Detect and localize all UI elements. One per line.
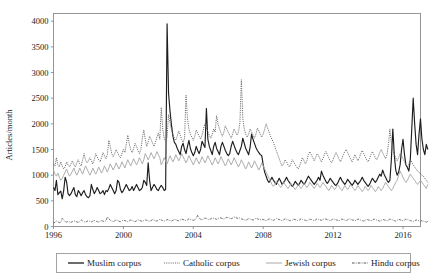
x-tick-label: 2000 (115, 230, 132, 240)
x-tick-label: 2008 (255, 230, 272, 240)
legend-label-muslim-corpus: Muslim corpus (87, 258, 142, 268)
axes-spines (54, 14, 421, 227)
x-tick-label: 2012 (325, 230, 342, 240)
y-tick-label: 2000 (32, 119, 49, 129)
y-tick-label: 4000 (32, 16, 49, 26)
y-tick-label: 1000 (32, 170, 49, 180)
legend-label-hindu-corpus: Hindu corpus (371, 258, 420, 268)
y-axis-title: Articles/month (4, 109, 14, 161)
x-axis-ticks: 199620002004200820122016 (45, 227, 412, 241)
chart-figure: Articles/month 0500100015002000250030003… (0, 0, 433, 279)
y-axis-title-label: Articles/month (4, 109, 14, 161)
y-tick-label: 3500 (32, 42, 49, 52)
series-line-hindu-corpus (54, 215, 428, 223)
legend-label-catholic-corpus: Catholic corpus (183, 258, 240, 268)
series-line-muslim-corpus (54, 24, 428, 199)
chart-legend: Muslim corpusCatholic corpusJewish corpu… (57, 254, 421, 273)
y-tick-label: 2500 (32, 93, 49, 103)
plot-series-group (54, 24, 428, 223)
y-tick-label: 3000 (32, 68, 49, 78)
x-tick-label: 1996 (45, 230, 62, 240)
y-axis-ticks: 05001000150020002500300035004000 (32, 16, 54, 231)
y-tick-label: 1500 (32, 145, 49, 155)
legend-label-jewish-corpus: Jewish corpus (285, 258, 336, 268)
line-chart: Articles/month 0500100015002000250030003… (0, 0, 433, 279)
x-tick-label: 2016 (395, 230, 412, 240)
x-tick-label: 2004 (185, 230, 203, 240)
y-tick-label: 500 (36, 196, 49, 206)
